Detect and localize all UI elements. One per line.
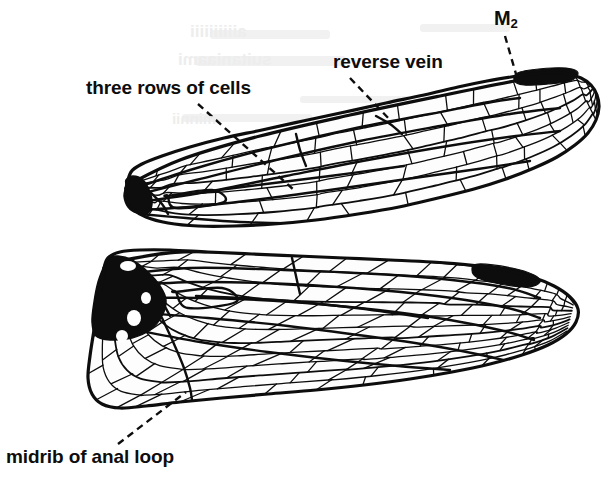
label-m2-text: M [494, 7, 511, 29]
cross-vein [320, 152, 321, 166]
cross-vein [564, 301, 565, 306]
wing-shapes-layer [88, 68, 599, 408]
label-three-rows-of-cells: three rows of cells [86, 78, 251, 97]
basal-patch-cell-spot-2 [141, 292, 151, 304]
cross-vein [548, 334, 549, 338]
cross-vein [316, 195, 317, 208]
bleedthrough-blob-0 [210, 30, 330, 39]
cross-vein [456, 167, 457, 180]
basal-patch-cell-spot-3 [120, 261, 136, 271]
leader-line-m2 [505, 36, 516, 74]
label-m2: M2 [494, 8, 518, 30]
dragonfly-wing-figure: aiiiiiiiiii suitaniaami minnii three row… [0, 0, 616, 481]
bleedthrough-blob-2 [182, 114, 312, 122]
cross-vein [444, 127, 445, 142]
wing-hindwing [88, 250, 578, 408]
basal-patch-cell-spot-1 [116, 330, 128, 342]
label-reverse-vein: reverse vein [333, 52, 443, 71]
label-midrib-of-anal-loop: midrib of anal loop [6, 447, 174, 466]
bleedthrough-blob-1 [196, 56, 346, 66]
wing-illustration-canvas [0, 0, 616, 481]
basal-patch-cell-spot-0 [127, 310, 141, 326]
label-m2-subscript: 2 [511, 16, 518, 31]
